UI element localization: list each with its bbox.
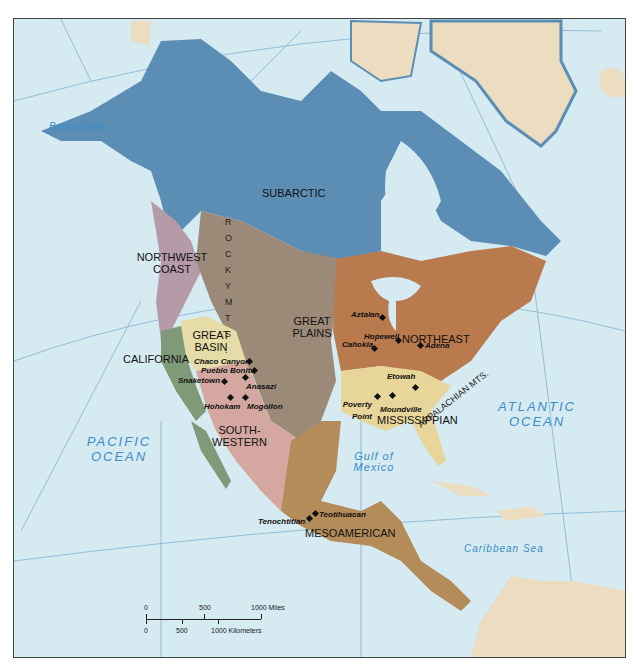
label-great-plains: GREAT PLAINS <box>282 315 342 339</box>
label-southwestern: SOUTH-WESTERN <box>212 424 267 448</box>
label-northwest-coast: NORTHWEST COAST <box>132 251 212 275</box>
label-california: CALIFORNIA <box>123 353 189 365</box>
site-etowah: Etowah <box>387 371 415 383</box>
scale-km-0: 0 <box>144 627 148 634</box>
label-bering-strait: Bering Strait <box>49 121 104 132</box>
site-aztalan: Aztalan <box>351 309 379 321</box>
label-mesoamerican: MESOAMERICAN <box>305 527 395 539</box>
site-tenochtitlan: Tenochtitlán <box>258 516 305 528</box>
site-hohokam: Hohokam <box>204 401 240 413</box>
label-caribbean-sea: Caribbean Sea <box>464 543 544 554</box>
cuba-shape <box>431 481 491 496</box>
site-poverty-point: Poverty Point <box>332 399 372 423</box>
site-moundville: Moundville <box>380 404 422 416</box>
site-snaketown: Snaketown <box>178 375 220 387</box>
south-america-shape <box>471 576 625 657</box>
label-rocky-mts: R O C K Y M T S . <box>225 214 235 358</box>
scale-line <box>146 619 261 620</box>
label-pacific-ocean: PACIFIC OCEAN <box>74 434 164 464</box>
iceland-shape <box>599 68 625 98</box>
siberia-shape <box>131 21 151 46</box>
scale-km-500: 500 <box>176 627 188 634</box>
site-cahokia: Cahokia <box>342 339 373 351</box>
label-gulf-of-mexico: Gulf of Mexico <box>349 451 399 473</box>
site-adena: Adena <box>425 340 449 352</box>
scale-km-1000: 1000 Kilometers <box>211 627 262 634</box>
label-subarctic: SUBARCTIC <box>262 187 326 199</box>
map-frame: Bering Strait SUBARCTIC NORTHWEST COAST … <box>13 18 626 658</box>
site-teotihuacan: Teotihuacan <box>319 509 366 521</box>
scale-miles-500: 500 <box>199 604 211 611</box>
site-anasazi: Anasazi <box>246 381 276 393</box>
greenland-shape <box>431 21 576 146</box>
scale-miles-1000: 1000 Miles <box>251 604 285 611</box>
arctic-islands-shape <box>351 21 421 81</box>
hispaniola-shape <box>496 506 546 521</box>
site-mogollon: Mogollon <box>247 401 283 413</box>
label-atlantic-ocean: ATLANTIC OCEAN <box>492 399 582 429</box>
scale-miles-0: 0 <box>144 604 148 611</box>
scale-bar: 0 500 1000 Miles 0 500 1000 Kilometers <box>144 604 304 644</box>
